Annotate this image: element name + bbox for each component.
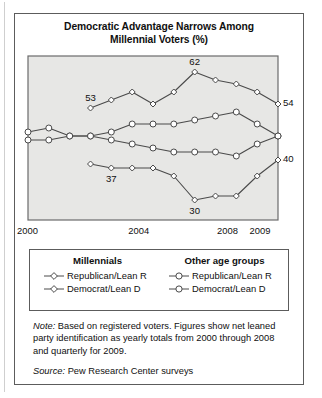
legend-heading: Millennials: [34, 255, 161, 266]
chart-note: Note: Based on registered voters. Figure…: [33, 320, 285, 357]
chart-plot-area: 53623730 54 40: [24, 52, 294, 224]
end-value-label-bottom: 40: [283, 153, 294, 164]
legend-item-label: Republican/Lean R: [192, 269, 272, 282]
x-axis-tick-2000: 2000: [17, 225, 38, 236]
legend-item-other-democrat: Democrat/Lean D: [161, 282, 288, 295]
chart-title-line-2: Millennial Voters (%): [24, 34, 294, 47]
diamond-open-icon: [44, 271, 64, 281]
svg-text:37: 37: [106, 173, 117, 184]
svg-text:53: 53: [85, 92, 96, 103]
line-chart-svg: 53623730: [24, 52, 296, 224]
legend-item-label: Republican/Lean R: [67, 269, 147, 282]
legend-item-other-republican: Republican/Lean R: [161, 269, 288, 282]
chart-legend: Millennials Republican/Lean R Democrat/L…: [29, 249, 289, 311]
circle-open-icon: [169, 284, 189, 294]
figure-card: Democratic Advantage Narrows Among Mille…: [14, 13, 304, 385]
x-axis-tick-2009: 2009: [250, 225, 271, 236]
note-text: Based on registered voters. Figures show…: [33, 321, 275, 356]
legend-item-label: Democrat/Lean D: [67, 282, 140, 295]
svg-text:30: 30: [189, 205, 200, 216]
page-title: Democratic Advantage Narrows Among Mille…: [24, 21, 294, 46]
end-value-label-top: 54: [283, 97, 294, 108]
legend-item-millennials-democrat: Democrat/Lean D: [34, 282, 161, 295]
chart-title-line-1: Democratic Advantage Narrows Among: [24, 21, 294, 34]
chart-source: Source: Pew Research Center surveys: [33, 366, 285, 376]
svg-text:62: 62: [189, 56, 200, 67]
source-text: Pew Research Center surveys: [65, 366, 193, 376]
legend-item-millennials-republican: Republican/Lean R: [34, 269, 161, 282]
note-lead: Note:: [33, 321, 55, 331]
legend-heading: Other age groups: [161, 255, 288, 266]
circle-open-icon: [169, 271, 189, 281]
x-axis-tick-2004: 2004: [128, 225, 149, 236]
page-edge-artifact: [4, 2, 5, 392]
x-axis: 2000200420082009: [24, 225, 294, 241]
diamond-open-icon: [44, 284, 64, 294]
legend-column-millennials: Millennials Republican/Lean R Democrat/L…: [30, 255, 161, 310]
legend-column-other-age-groups: Other age groups Republican/Lean R Democ…: [161, 255, 288, 310]
x-axis-tick-2008: 2008: [217, 225, 238, 236]
legend-item-label: Democrat/Lean D: [192, 282, 265, 295]
source-lead: Source:: [33, 366, 65, 376]
